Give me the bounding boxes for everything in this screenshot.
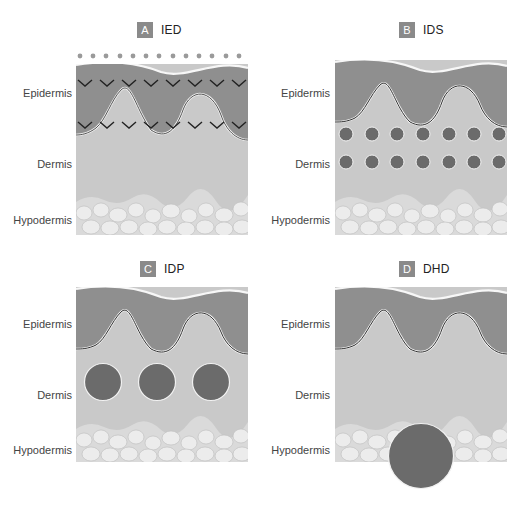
panel-b-epidermis-label: Epidermis [258, 87, 330, 99]
panel-b-title-text: IDS [423, 23, 444, 37]
panel-d-title: D DHD [399, 261, 450, 277]
panel-a-title: A IED [137, 22, 182, 38]
large-dermal-deposits [85, 364, 230, 401]
panel-a-epidermis-label: Epidermis [0, 87, 72, 99]
panel-c-skin-illustration [76, 287, 248, 462]
panel-d-epidermis-label: Epidermis [258, 318, 330, 330]
panel-b-dermis-label: Dermis [258, 158, 330, 170]
panel-d-title-text: DHD [423, 262, 450, 276]
panel-c-badge: C [140, 261, 156, 277]
panel-c-title: C IDP [140, 261, 185, 277]
panel-c-dermis-label: Dermis [0, 389, 72, 401]
panel-d-skin-illustration [335, 287, 507, 497]
panel-c-title-text: IDP [164, 262, 185, 276]
panel-a-hypodermis-label: Hypodermis [0, 214, 72, 226]
panel-d-dermis-label: Dermis [258, 389, 330, 401]
panel-a-dermis-label: Dermis [0, 158, 72, 170]
panel-d-badge: D [399, 261, 415, 277]
panel-c-epidermis-label: Epidermis [0, 318, 72, 330]
surface-dots [78, 54, 242, 59]
panel-b-badge: B [399, 22, 415, 38]
panel-b-skin-illustration [335, 50, 507, 235]
panel-b-hypodermis-label: Hypodermis [258, 214, 330, 226]
panel-a-skin-illustration [76, 50, 248, 235]
panel-b-title: B IDS [399, 22, 444, 38]
panel-c-hypodermis-label: Hypodermis [0, 444, 72, 456]
deep-deposit [389, 424, 454, 489]
panel-d-hypodermis-label: Hypodermis [258, 444, 330, 456]
panel-a-title-text: IED [161, 23, 182, 37]
panel-a-badge: A [137, 22, 153, 38]
